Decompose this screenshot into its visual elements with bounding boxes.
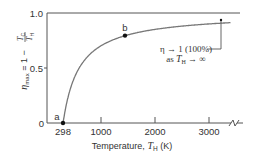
- x-tick-298: 298: [55, 126, 71, 137]
- efficiency-chart: 1.0 0.5 0 298 1000 2000 3000 Temperature…: [0, 0, 255, 160]
- y-tick-05: 0.5: [30, 63, 43, 74]
- efficiency-curve: [63, 23, 230, 123]
- x-axis-title: Temperature, TH (K): [92, 140, 172, 152]
- y-tick-1: 1.0: [30, 8, 43, 19]
- axes: [47, 13, 243, 126]
- annotation-line1: η → 1 (100%): [160, 44, 212, 54]
- svg-text:ηmax = 1 −: ηmax = 1 −: [18, 50, 30, 89]
- y-axis-title: ηmax = 1 − TC TH: [16, 32, 35, 90]
- x-tick-1000: 1000: [90, 126, 111, 137]
- axis-break-icon: [229, 120, 239, 126]
- annotation-line2: as TH → ∞: [166, 53, 206, 65]
- y-ticks: 1.0 0.5 0: [30, 8, 47, 130]
- svg-text:TH: TH: [25, 33, 35, 41]
- x-tick-3000: 3000: [198, 126, 219, 137]
- point-b: [123, 33, 127, 37]
- x-tick-2000: 2000: [144, 126, 165, 137]
- point-a-label: a: [54, 111, 60, 122]
- x-ticks: 298 1000 2000 3000: [55, 117, 220, 137]
- point-b-label: b: [122, 22, 127, 33]
- point-a: [61, 121, 65, 125]
- y-tick-0: 0: [39, 118, 44, 129]
